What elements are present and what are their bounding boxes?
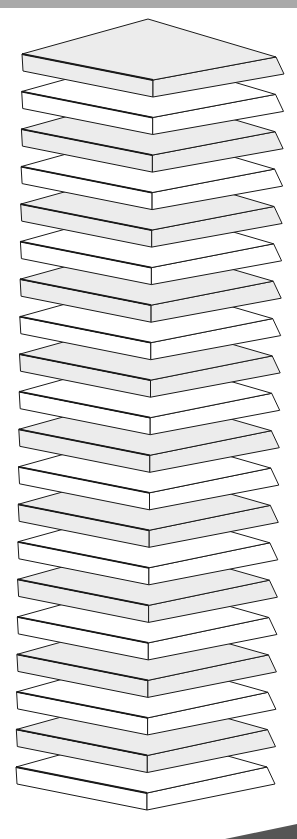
slab-stack-illustration	[0, 0, 297, 839]
bottom-swoosh-shape	[225, 824, 297, 839]
slabs-group	[16, 19, 284, 810]
